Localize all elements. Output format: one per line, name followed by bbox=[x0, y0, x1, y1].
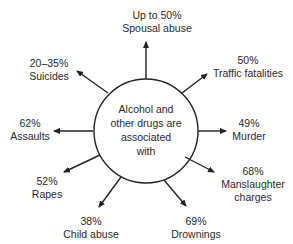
label: Rapes bbox=[32, 188, 62, 201]
arrow-drownings bbox=[164, 180, 186, 206]
label-rapes: 52% Rapes bbox=[32, 175, 62, 201]
value: 20–35% bbox=[29, 57, 69, 70]
arrow-rapes bbox=[64, 155, 100, 172]
value: 52% bbox=[32, 175, 62, 188]
label: Suicides bbox=[29, 70, 69, 83]
label-traffic-fatalities: 50% Traffic fatalities bbox=[213, 54, 283, 80]
label: Assaults bbox=[10, 130, 50, 143]
label: Manslaughter bbox=[221, 178, 285, 191]
center-line: associated bbox=[101, 130, 191, 144]
center-line: other drugs are bbox=[101, 116, 191, 130]
label-child-abuse: 38% Child abuse bbox=[63, 215, 118, 241]
value: 62% bbox=[10, 117, 50, 130]
value: 50% bbox=[213, 54, 283, 67]
value: 38% bbox=[63, 215, 118, 228]
center-text: Alcohol and other drugs are associated w… bbox=[101, 102, 191, 158]
value: 69% bbox=[171, 215, 221, 228]
label: Child abuse bbox=[63, 228, 118, 241]
label-line2: charges bbox=[221, 191, 285, 204]
value: Up to 50% bbox=[122, 9, 191, 22]
arrow-child-abuse bbox=[99, 177, 121, 207]
label: Traffic fatalities bbox=[213, 67, 283, 80]
label-manslaughter: 68% Manslaughter charges bbox=[221, 165, 285, 204]
label-drownings: 69% Drownings bbox=[171, 215, 221, 241]
arrow-manslaughter bbox=[185, 157, 214, 172]
label: Drownings bbox=[171, 228, 221, 241]
arrow-traffic-fatalities bbox=[182, 74, 207, 93]
label-suicides: 20–35% Suicides bbox=[29, 57, 69, 83]
label-assaults: 62% Assaults bbox=[10, 117, 50, 143]
center-line: with bbox=[101, 144, 191, 158]
label: Murder bbox=[232, 130, 265, 143]
value: 68% bbox=[221, 165, 285, 178]
label-murder: 49% Murder bbox=[232, 117, 265, 143]
label: Spousal abuse bbox=[122, 22, 191, 35]
value: 49% bbox=[232, 117, 265, 130]
label-spousal-abuse: Up to 50% Spousal abuse bbox=[122, 9, 191, 35]
center-line: Alcohol and bbox=[101, 102, 191, 116]
arrow-suicides bbox=[77, 71, 108, 93]
